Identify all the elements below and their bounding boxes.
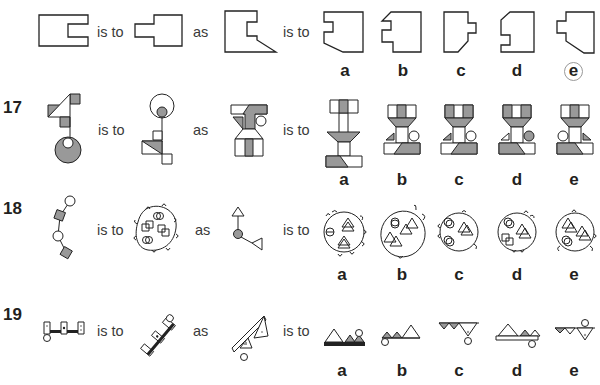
q19-connector-1: is to: [97, 323, 124, 339]
q19-option-c-figure[interactable]: [437, 321, 481, 351]
q19-option-c-label[interactable]: c: [449, 361, 469, 381]
q1-figure-a: [38, 14, 90, 48]
q1-option-e-label-selected[interactable]: e: [564, 62, 583, 81]
q18-connector-3: is to: [283, 222, 310, 238]
q1-figure-b: [134, 14, 184, 48]
q18-connector-1: is to: [97, 222, 124, 238]
q1-option-a-figure[interactable]: [323, 11, 365, 54]
q18-figure-a: [50, 194, 80, 264]
q17-option-c-figure[interactable]: [439, 103, 479, 163]
q17-option-e-label[interactable]: e: [564, 170, 584, 190]
q19-figure-b: [136, 312, 180, 362]
q19-option-b-label[interactable]: b: [392, 361, 412, 381]
q18-figure-b: [132, 204, 182, 254]
q18-figure-c: [232, 206, 267, 250]
q19-figure-a: [42, 320, 86, 342]
q19-option-d-figure[interactable]: [494, 320, 540, 354]
q17-option-c-label[interactable]: c: [449, 170, 469, 190]
q19-option-d-label[interactable]: d: [507, 361, 527, 381]
q1-option-c-label[interactable]: c: [451, 61, 471, 81]
q1-connector-1: is to: [97, 24, 124, 40]
q19-option-a-label[interactable]: a: [332, 361, 352, 381]
q19-figure-c: [230, 312, 270, 362]
q18-option-b-figure[interactable]: [378, 204, 430, 260]
q17-option-b-figure[interactable]: [382, 103, 422, 163]
q1-option-a-label[interactable]: a: [335, 61, 355, 81]
question-number-19: 19: [3, 305, 22, 325]
question-number-18: 18: [3, 199, 22, 219]
q1-option-d-label[interactable]: d: [507, 61, 527, 81]
q19-option-e-figure[interactable]: [553, 318, 597, 348]
q17-figure-a: [46, 92, 86, 172]
q19-option-e-label[interactable]: e: [564, 361, 584, 381]
q19-option-a-figure[interactable]: [322, 323, 366, 349]
q18-option-a-figure[interactable]: [320, 208, 370, 258]
q1-option-b-label[interactable]: b: [393, 61, 413, 81]
q1-option-e-figure[interactable]: [556, 11, 596, 54]
q17-connector-3: is to: [283, 122, 310, 138]
q18-option-d-figure[interactable]: [494, 210, 540, 256]
q17-option-d-figure[interactable]: [497, 103, 537, 163]
q17-figure-c: [229, 103, 271, 163]
q17-option-b-label[interactable]: b: [392, 170, 412, 190]
q19-connector-3: is to: [283, 323, 310, 339]
q17-connector-2: as: [193, 122, 208, 138]
q1-connector-2: as: [193, 24, 208, 40]
q18-option-b-label[interactable]: b: [392, 265, 412, 285]
q1-option-d-figure[interactable]: [500, 11, 536, 54]
q1-connector-3: is to: [283, 24, 310, 40]
q18-connector-2: as: [195, 222, 210, 238]
q17-option-a-figure[interactable]: [324, 98, 364, 170]
q17-option-d-label[interactable]: d: [507, 170, 527, 190]
q18-option-e-figure[interactable]: [552, 208, 598, 256]
q17-option-a-label[interactable]: a: [334, 170, 354, 190]
q18-option-d-label[interactable]: d: [507, 265, 527, 285]
q18-option-e-label[interactable]: e: [564, 265, 584, 285]
q19-option-b-figure[interactable]: [380, 321, 424, 351]
q17-option-e-figure[interactable]: [555, 103, 595, 163]
q1-figure-c: [224, 10, 279, 54]
q19-connector-2: as: [193, 323, 208, 339]
q18-option-a-label[interactable]: a: [332, 265, 352, 285]
q1-option-c-figure[interactable]: [443, 11, 479, 54]
q18-option-c-label[interactable]: c: [449, 265, 469, 285]
question-number-17: 17: [3, 98, 22, 118]
q18-option-c-figure[interactable]: [436, 210, 482, 256]
q17-figure-b: [140, 92, 180, 172]
q17-connector-1: is to: [98, 122, 125, 138]
q1-option-b-figure[interactable]: [381, 11, 423, 54]
